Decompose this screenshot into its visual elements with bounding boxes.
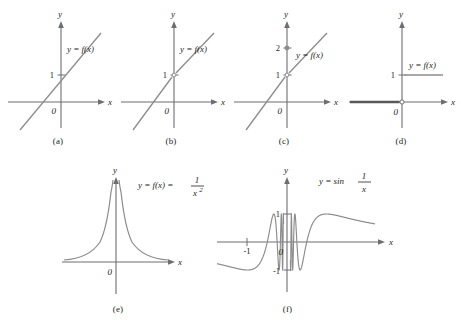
- x-axis-label: x: [107, 97, 112, 107]
- panel-c-graph: y x 2 1 0 y = f(x): [230, 6, 338, 132]
- panel-a: y x 1 0 y = f(x) (a): [4, 6, 112, 146]
- x-axis-label: x: [388, 237, 393, 247]
- panel-b: y x 1 0 y = f(x) (b): [117, 6, 225, 146]
- function-curve-left: [64, 180, 113, 260]
- panel-a-graph: y x 1 0 y = f(x): [4, 6, 112, 132]
- origin-label: 0: [52, 106, 57, 116]
- equation-exponent: 2: [199, 186, 203, 194]
- y-axis-arrow: [171, 21, 177, 28]
- y-axis-label: y: [283, 165, 288, 175]
- y-axis-arrow: [113, 177, 119, 184]
- equation-label: y = f(x): [179, 44, 207, 54]
- x-tick-label-neg1: -1: [243, 246, 250, 256]
- y-axis-label: y: [398, 9, 403, 19]
- open-circle-hole: [172, 73, 176, 77]
- x-axis-arrow: [211, 99, 218, 105]
- origin-label: 0: [278, 106, 283, 116]
- x-axis-arrow: [324, 99, 331, 105]
- equation-prefix: y = f(x) =: [137, 180, 173, 190]
- panel-f-caption: (f): [215, 304, 360, 314]
- y-axis-arrow: [284, 177, 290, 184]
- panel-c-caption: (c): [230, 136, 338, 146]
- panel-f: y x 1 -1 -1 0 y = sin 1 x (f): [215, 162, 405, 317]
- equation-label: y = sin 1 x: [318, 171, 371, 194]
- panel-d: y x 1 0 y = f(x) (d): [345, 6, 457, 146]
- x-axis-label: x: [220, 97, 225, 107]
- equation-numerator: 1: [362, 171, 367, 181]
- panel-e-caption: (e): [58, 304, 178, 314]
- open-circle-hole: [285, 73, 289, 77]
- panel-f-graph: y x 1 -1 -1 0 y = sin 1 x: [215, 162, 405, 302]
- y-tick-label-1: 1: [163, 70, 167, 80]
- y-tick-label-1: 1: [276, 209, 280, 219]
- panel-d-caption: (d): [345, 136, 457, 146]
- equation-denominator: x: [361, 184, 366, 194]
- y-tick-label-1: 1: [50, 70, 54, 80]
- x-axis-arrow: [98, 99, 105, 105]
- origin-label: 0: [279, 247, 284, 257]
- y-tick-label-1: 1: [276, 70, 280, 80]
- equation-label: y = f(x): [295, 50, 323, 60]
- equation-denominator: x: [192, 188, 197, 198]
- panel-b-graph: y x 1 0 y = f(x): [117, 6, 225, 132]
- function-curve-right: [119, 180, 168, 260]
- y-axis-arrow: [399, 21, 405, 28]
- function-curve-left: [246, 77, 285, 130]
- open-circle-origin: [400, 100, 404, 104]
- x-axis-label: x: [333, 97, 338, 107]
- panel-b-caption: (b): [117, 136, 225, 146]
- equation-prefix: y = sin: [318, 176, 345, 186]
- x-axis-label: x: [177, 257, 182, 267]
- function-curve-left: [133, 77, 172, 130]
- y-axis-arrow: [284, 21, 290, 28]
- origin-label: 0: [108, 267, 113, 277]
- y-axis-label: y: [57, 9, 62, 19]
- origin-label: 0: [165, 106, 170, 116]
- y-axis-arrow: [58, 21, 64, 28]
- panel-a-caption: (a): [4, 136, 112, 146]
- equation-numerator: 1: [195, 175, 200, 185]
- y-tick-label-2: 2: [276, 43, 280, 53]
- x-axis-arrow: [378, 239, 385, 245]
- y-tick-label-1: 1: [391, 70, 395, 80]
- y-axis-label: y: [170, 9, 175, 19]
- y-axis-label: y: [112, 165, 117, 175]
- y-axis-label: y: [283, 9, 288, 19]
- panel-d-graph: y x 1 0 y = f(x): [345, 6, 457, 132]
- y-tick-label-neg1: -1: [273, 266, 280, 276]
- equation-label: y = f(x): [66, 44, 94, 54]
- math-figure: y x 1 0 y = f(x) (a) y x 1 0 y = f(x) (b…: [0, 0, 461, 322]
- panel-e: y x 0 y = f(x) = 1 x 2 (e): [58, 162, 224, 317]
- x-axis-arrow: [168, 259, 175, 265]
- panel-c: y x 2 1 0 y = f(x) (c): [230, 6, 338, 146]
- origin-label: 0: [394, 107, 399, 117]
- equation-label: y = f(x) = 1 x 2: [137, 175, 204, 198]
- filled-dot-point: [285, 46, 290, 51]
- x-axis-arrow: [441, 99, 448, 105]
- x-axis-label: x: [450, 97, 455, 107]
- panel-e-graph: y x 0 y = f(x) = 1 x 2: [58, 162, 224, 302]
- equation-label: y = f(x): [408, 60, 436, 70]
